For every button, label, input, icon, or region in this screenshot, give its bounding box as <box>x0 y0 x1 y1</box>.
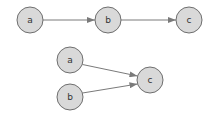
node-top-b: b <box>95 7 121 33</box>
node-label: a <box>67 55 73 65</box>
edge-merge-b-c <box>83 84 138 93</box>
node-merge-a: a <box>57 47 83 73</box>
diagram-canvas: a b c a b c <box>0 0 218 122</box>
node-merge-b: b <box>57 84 83 110</box>
node-label: a <box>27 15 33 25</box>
edge-merge-a-c <box>83 65 138 77</box>
node-top-a: a <box>17 7 43 33</box>
node-label: b <box>105 15 111 25</box>
node-label: b <box>67 92 73 102</box>
node-merge-c: c <box>137 67 163 93</box>
node-label: c <box>148 75 153 85</box>
node-top-c: c <box>176 7 202 33</box>
node-label: c <box>187 15 192 25</box>
